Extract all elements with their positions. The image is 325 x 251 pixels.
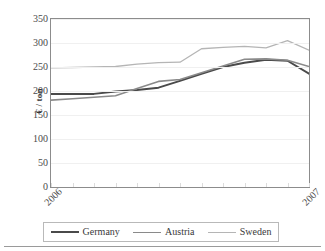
legend-swatch-icon	[51, 231, 79, 233]
gridline	[51, 91, 309, 92]
legend-item-austria[interactable]: Austria	[133, 227, 194, 237]
gridline	[51, 67, 309, 68]
y-tick-label: 250	[22, 62, 48, 72]
legend-swatch-icon	[208, 232, 236, 233]
chart-legend: GermanyAustriaSweden	[43, 222, 279, 242]
y-tick-label: 0	[22, 182, 48, 192]
x-tick-mark	[288, 183, 289, 187]
gridline	[51, 43, 309, 44]
x-tick-mark	[309, 183, 310, 187]
x-tick-mark	[180, 183, 181, 187]
bottom-rule	[4, 246, 321, 247]
x-tick-mark	[51, 183, 52, 187]
y-axis-tick-labels: 050100150200250300350	[18, 0, 48, 251]
y-tick-label: 200	[22, 86, 48, 96]
y-tick-label: 150	[22, 110, 48, 120]
y-tick-label: 100	[22, 134, 48, 144]
gridline	[51, 139, 309, 140]
legend-swatch-icon	[133, 232, 161, 233]
legend-label: Germany	[83, 227, 120, 237]
x-tick-mark	[73, 183, 74, 187]
x-tick-mark	[266, 183, 267, 187]
gridline	[51, 163, 309, 164]
gridline	[51, 115, 309, 116]
x-tick-label: 2007	[300, 186, 322, 208]
legend-item-sweden[interactable]: Sweden	[208, 227, 272, 237]
y-tick-label: 300	[22, 38, 48, 48]
x-tick-mark	[245, 183, 246, 187]
plot-area	[50, 18, 310, 188]
series-lines	[51, 19, 309, 187]
series-line-germany	[51, 60, 309, 94]
x-tick-mark	[159, 183, 160, 187]
x-tick-mark	[94, 183, 95, 187]
x-tick-mark	[137, 183, 138, 187]
gridline	[51, 19, 309, 20]
x-tick-mark	[223, 183, 224, 187]
x-tick-mark	[116, 183, 117, 187]
legend-label: Sweden	[240, 227, 272, 237]
series-line-sweden	[51, 41, 309, 68]
chart-figure: € / ton 050100150200250300350 20062007 G…	[0, 0, 325, 251]
legend-item-germany[interactable]: Germany	[51, 227, 120, 237]
legend-label: Austria	[165, 227, 194, 237]
y-tick-label: 350	[22, 14, 48, 24]
y-tick-label: 50	[22, 158, 48, 168]
x-tick-mark	[202, 183, 203, 187]
